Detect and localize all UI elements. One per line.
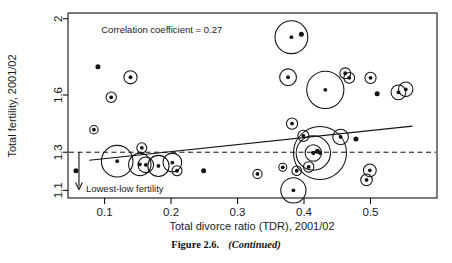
bubble-centre-dot: [175, 169, 179, 173]
bubble-centre-dot: [311, 151, 315, 155]
bubble-centre-dot: [291, 188, 295, 192]
bubble-centre-dot: [368, 168, 372, 172]
bubble-centre-dot: [286, 75, 290, 79]
bubble-centre-dot: [170, 161, 174, 165]
bubble-centre-dot: [347, 76, 351, 80]
y-axis-ticks: 1.11.31.62: [52, 16, 68, 199]
data-dot: [95, 64, 100, 69]
bubble-centre-dot: [339, 135, 343, 139]
lowest-low-annotation: Lowest-low fertility: [86, 183, 164, 194]
data-dot: [201, 168, 206, 173]
data-dot: [73, 168, 78, 173]
bubble-centre-dot: [318, 151, 322, 155]
bubble-centre-dot: [289, 35, 293, 39]
trend-line-segment: [89, 126, 412, 160]
y-axis-label: Total fertility, 2001/02: [6, 54, 18, 157]
figure-2-6: 1.11.31.62 0.10.20.30.40.5 Correlation c…: [0, 0, 452, 263]
figure-caption: Figure 2.6.(Continued): [0, 239, 452, 250]
x-tick-label: 0.3: [230, 206, 246, 218]
bubble-centre-dot: [307, 165, 311, 169]
bubble-centre-dot: [295, 169, 299, 173]
regression-line: [89, 126, 412, 160]
plot-annotations: Correlation coefficient = 0.27Lowest-low…: [86, 24, 222, 194]
bubble-centre-dot: [157, 164, 161, 168]
bubble-centre-dot: [92, 128, 96, 132]
x-axis-ticks: 0.10.20.30.40.5: [97, 198, 379, 218]
bubble-centre-dot: [301, 134, 305, 138]
x-axis-label: Total divorce ratio (TDR), 2001/02: [169, 220, 334, 232]
x-tick-label: 0.4: [296, 206, 313, 218]
y-tick-label: 2: [52, 16, 64, 22]
bubble-centre-dot: [109, 95, 113, 99]
data-dot: [299, 32, 304, 37]
x-tick-label: 0.5: [363, 206, 379, 218]
caption-note: (Continued): [228, 239, 281, 250]
data-points: [73, 21, 412, 203]
bubble-centre-dot: [365, 178, 369, 182]
bubble-centre-dot: [281, 165, 285, 169]
bubble-centre-dot: [404, 87, 408, 91]
bubble-centre-dot: [369, 76, 373, 80]
bubble-centre-dot: [144, 163, 148, 167]
scatter-plot: 1.11.31.62 0.10.20.30.40.5 Correlation c…: [0, 0, 452, 240]
bubble-centre-dot: [129, 75, 133, 79]
bubble-centre-dot: [140, 146, 144, 150]
bubble-centre-dot: [290, 122, 294, 126]
bubble-centre-dot: [256, 172, 260, 176]
plot-frame: [68, 13, 437, 198]
caption-label: Figure 2.6.: [171, 239, 219, 250]
bubble-centre-dot: [323, 88, 327, 92]
x-tick-label: 0.1: [97, 206, 113, 218]
bubble-centre-dot: [115, 159, 119, 163]
y-tick-label: 1.6: [52, 87, 64, 103]
data-dot: [353, 137, 358, 142]
y-tick-label: 1.3: [52, 144, 64, 160]
data-dot: [375, 91, 380, 96]
y-tick-label: 1.1: [52, 182, 64, 198]
x-tick-label: 0.2: [163, 206, 179, 218]
correlation-annotation: Correlation coefficient = 0.27: [101, 24, 222, 35]
